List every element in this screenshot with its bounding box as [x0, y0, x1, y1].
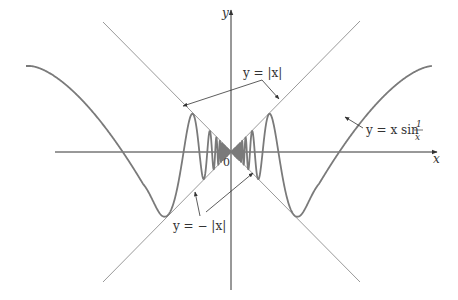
function-graph: y x 0 y = |x| y = − |x| y = x sin 1 x [0, 0, 458, 300]
pointer-lower-right [206, 173, 253, 212]
y-axis-label: y [221, 6, 229, 20]
curve-label-numerator: 1 [416, 119, 422, 129]
pointer-upper-left [183, 80, 262, 106]
pointer-upper-right [262, 80, 279, 99]
pointer-lower-left [195, 192, 200, 216]
upper-envelope-label: y = |x| [242, 66, 282, 80]
lower-envelope-label: y = − |x| [172, 219, 226, 233]
curve-label: y = x sin [365, 123, 419, 137]
x-axis-label: x [433, 152, 440, 166]
origin-label: 0 [223, 156, 230, 169]
curve-label-denominator: x [415, 132, 420, 142]
curve-x-sin-1-over-x [26, 66, 432, 217]
